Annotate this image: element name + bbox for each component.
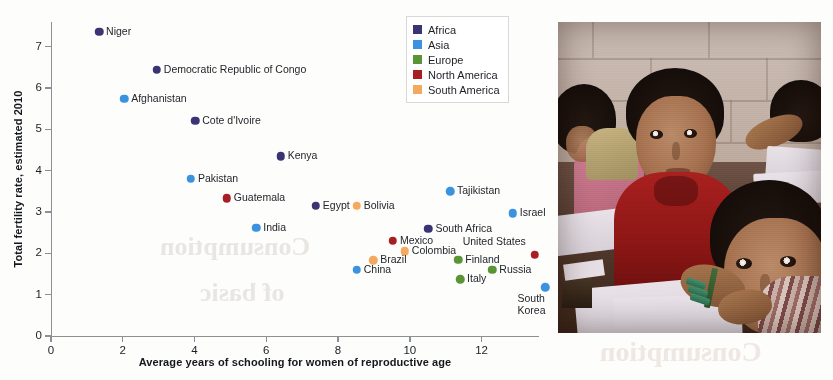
data-point[interactable] [191, 116, 200, 125]
data-point-label: Russia [499, 264, 531, 276]
data-point-label: Italy [467, 274, 486, 286]
legend-item[interactable]: North America [413, 67, 500, 82]
data-point-label: Niger [106, 26, 131, 38]
y-tick-label: 4 [20, 164, 42, 176]
data-point-label: United States [463, 236, 526, 248]
data-point-label: Afghanistan [131, 93, 186, 105]
data-point[interactable] [153, 65, 162, 74]
y-tick-label: 6 [20, 81, 42, 93]
data-point[interactable] [509, 209, 518, 218]
data-point-label: Finland [465, 254, 499, 266]
data-point[interactable] [456, 275, 465, 284]
x-tick-mark [194, 336, 195, 342]
data-point[interactable] [454, 255, 463, 264]
legend-label: South America [428, 84, 500, 96]
data-point[interactable] [446, 187, 455, 196]
data-point[interactable] [488, 266, 497, 275]
x-tick-mark [122, 336, 123, 342]
legend-item[interactable]: Africa [413, 22, 500, 37]
x-tick-label: 8 [323, 344, 353, 356]
data-point[interactable] [312, 202, 321, 211]
data-point[interactable] [252, 224, 261, 233]
data-point[interactable] [389, 237, 398, 246]
page-bleed-text-3: Consumption [600, 336, 762, 368]
x-tick-label: 6 [251, 344, 281, 356]
legend-swatch-icon [413, 25, 422, 34]
legend-label: Europe [428, 54, 463, 66]
data-point-label: South Africa [435, 223, 492, 235]
legend-item[interactable]: Asia [413, 37, 500, 52]
data-point-label: Guatemala [234, 192, 285, 204]
legend-swatch-icon [413, 70, 422, 79]
x-tick-label: 4 [180, 344, 210, 356]
legend-label: Asia [428, 39, 449, 51]
x-tick-mark [409, 336, 410, 342]
data-point[interactable] [424, 224, 433, 233]
data-point-label: Tajikistan [457, 186, 500, 198]
legend-label: Africa [428, 24, 456, 36]
data-point-label: Egypt [323, 200, 350, 212]
y-tick-label: 0 [20, 329, 42, 341]
data-point-label: Kenya [288, 151, 318, 163]
data-point[interactable] [352, 266, 361, 275]
x-axis-title: Average years of schooling for women of … [51, 356, 539, 368]
y-tick-label: 3 [20, 205, 42, 217]
legend-swatch-icon [413, 40, 422, 49]
data-point-label: Israel [520, 208, 546, 220]
data-point-label: Democratic Republic of Congo [164, 64, 306, 76]
y-tick-label: 2 [20, 246, 42, 258]
data-point-label: Cote d'Ivoire [202, 115, 261, 127]
chart-legend: AfricaAsiaEuropeNorth AmericaSouth Ameri… [406, 16, 509, 103]
data-point[interactable] [223, 194, 232, 203]
classroom-photo [558, 22, 821, 333]
y-tick-label: 7 [20, 40, 42, 52]
x-tick-label: 2 [108, 344, 138, 356]
legend-swatch-icon [413, 85, 422, 94]
scatter-chart: Total fertility rate, estimated 2010 Ave… [0, 0, 553, 380]
data-point-label: Colombia [412, 246, 456, 258]
x-tick-mark [50, 336, 51, 342]
x-tick-mark [266, 336, 267, 342]
legend-swatch-icon [413, 55, 422, 64]
x-axis-line [51, 336, 539, 337]
data-point-label: Bolivia [364, 200, 395, 212]
x-tick-mark [481, 336, 482, 342]
data-point-label: South Korea [517, 293, 545, 316]
legend-item[interactable]: South America [413, 82, 500, 97]
x-tick-label: 10 [395, 344, 425, 356]
data-point[interactable] [541, 283, 550, 292]
data-point[interactable] [530, 250, 539, 259]
y-tick-label: 1 [20, 288, 42, 300]
legend-label: North America [428, 69, 498, 81]
data-point-label: Pakistan [198, 173, 238, 185]
data-point-label: India [263, 222, 286, 234]
data-point[interactable] [95, 28, 104, 37]
data-point-label: China [364, 264, 391, 276]
y-tick-label: 5 [20, 122, 42, 134]
x-tick-label: 12 [467, 344, 497, 356]
x-tick-label: 0 [36, 344, 66, 356]
data-point[interactable] [187, 174, 196, 183]
x-tick-mark [337, 336, 338, 342]
data-point[interactable] [276, 152, 285, 161]
data-point[interactable] [352, 202, 361, 211]
data-point[interactable] [120, 95, 129, 104]
legend-item[interactable]: Europe [413, 52, 500, 67]
